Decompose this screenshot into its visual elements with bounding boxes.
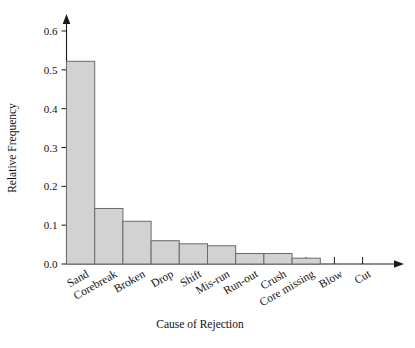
bar <box>123 221 151 264</box>
y-tick-label: 0.5 <box>44 64 58 76</box>
x-category-label: Broken <box>112 267 148 294</box>
bar <box>151 241 179 264</box>
bar <box>67 61 95 264</box>
x-category-label: Blow <box>317 267 345 290</box>
x-category-label: Cut <box>352 267 373 286</box>
bar <box>236 254 264 264</box>
bar-group <box>67 61 321 264</box>
y-tick-label: 0.0 <box>44 258 58 270</box>
bar <box>179 244 207 264</box>
x-axis-title: Cause of Rejection <box>156 318 244 331</box>
y-tick-label: 0.3 <box>44 142 58 154</box>
relative-frequency-bar-chart: 0.00.10.20.30.40.50.6 SandCorebreakBroke… <box>0 0 415 348</box>
y-tick-label: 0.6 <box>44 25 58 37</box>
bar <box>208 246 236 264</box>
x-axis-arrowhead <box>394 260 404 268</box>
bar <box>95 208 123 264</box>
y-axis-title: Relative Frequency <box>6 103 19 193</box>
y-tick-group: 0.00.10.20.30.40.50.6 <box>44 25 67 270</box>
bar <box>264 254 292 264</box>
x-category-label-group: SandCorebreakBrokenDropShiftMis-runRun-o… <box>65 267 374 309</box>
x-category-label: Drop <box>149 267 176 290</box>
y-axis-arrowhead <box>63 14 71 24</box>
y-tick-label: 0.1 <box>44 219 58 231</box>
bar <box>292 258 320 264</box>
y-tick-label: 0.2 <box>44 180 58 192</box>
y-tick-label: 0.4 <box>44 103 58 115</box>
chart-canvas: 0.00.10.20.30.40.50.6 SandCorebreakBroke… <box>0 0 415 348</box>
